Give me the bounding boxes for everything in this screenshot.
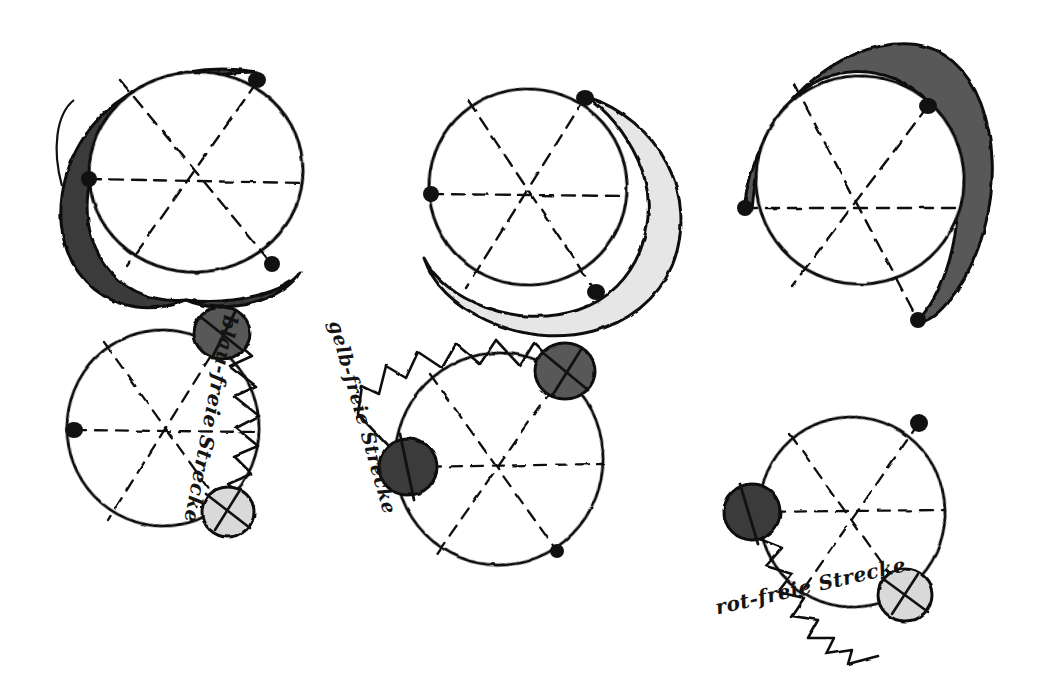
dot-bottom-right-bottom-middle — [550, 544, 564, 558]
dot-bottom-right-top-right — [910, 312, 926, 328]
dot-bottom-right-top-middle — [587, 284, 605, 300]
dot-left-top-left — [81, 171, 97, 187]
dot-top-right-top-right — [919, 98, 937, 114]
dot-bottom-right-top-left — [264, 256, 280, 272]
dot-top-right-top-middle — [576, 90, 594, 106]
dot-left-bottom-left — [65, 422, 83, 438]
dot-top-right-bottom-right — [910, 414, 928, 432]
dot-left-top-middle — [423, 186, 439, 202]
dot-top-right-top-left — [248, 72, 266, 88]
figure-bottom-right — [724, 405, 957, 664]
sketch-sheet: blau-freie Strecke gelb-freie Strecke ro… — [0, 0, 1049, 688]
disc-dark-bottom-right — [724, 484, 780, 540]
figure-bottom-left — [59, 307, 267, 537]
figure-top-middle — [422, 82, 681, 335]
crescent-dark-tail-top-left — [186, 272, 300, 307]
sketch-canvas — [0, 0, 1049, 688]
figure-top-left — [57, 61, 313, 307]
dot-left-top-right — [737, 200, 753, 216]
circle-outline-top-middle — [422, 82, 633, 291]
figure-top-right — [737, 44, 992, 328]
figure-bottom-middle — [358, 340, 614, 575]
